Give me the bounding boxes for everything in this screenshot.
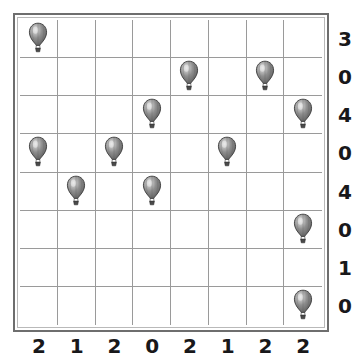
column-clue-1: 2 [20,333,58,359]
grid-cell-r3-c7[interactable] [247,96,285,134]
grid-cell-r2-c1[interactable] [20,58,58,96]
grid-cell-r6-c7[interactable] [247,211,285,249]
grid-cell-r6-c2[interactable] [58,211,96,249]
grid-cell-r3-c3[interactable] [96,96,134,134]
grid-cell-r7-c4[interactable] [133,249,171,287]
grid-cell-r8-c4[interactable] [133,287,171,325]
grid-cell-r6-c6[interactable] [209,211,247,249]
grid-cell-r1-c6[interactable] [209,20,247,58]
puzzle-grid[interactable] [20,20,322,325]
grid-cell-r4-c1[interactable] [20,134,58,172]
grid-cell-r2-c5[interactable] [171,58,209,96]
row-clue-4: 0 [332,134,358,172]
grid-cell-r8-c8[interactable] [284,287,322,325]
grid-cell-r6-c1[interactable] [20,211,58,249]
grid-cell-r2-c8[interactable] [284,58,322,96]
grid-cell-r8-c5[interactable] [171,287,209,325]
grid-cell-r8-c3[interactable] [96,287,134,325]
row-clue-5: 4 [332,173,358,211]
grid-cell-r2-c3[interactable] [96,58,134,96]
hot-air-balloon-icon [142,175,162,207]
row-clue-3: 4 [332,96,358,134]
grid-cell-r3-c4[interactable] [133,96,171,134]
grid-cell-r6-c5[interactable] [171,211,209,249]
grid-cell-r5-c6[interactable] [209,173,247,211]
grid-cell-r8-c2[interactable] [58,287,96,325]
row-clue-2: 0 [332,58,358,96]
column-clue-3: 2 [96,333,134,359]
hot-air-balloon-icon [104,136,124,168]
grid-cell-r8-c7[interactable] [247,287,285,325]
row-clue-1: 3 [332,20,358,58]
hot-air-balloon-icon [28,136,48,168]
grid-cell-r4-c5[interactable] [171,134,209,172]
grid-cell-r3-c1[interactable] [20,96,58,134]
grid-cell-r3-c2[interactable] [58,96,96,134]
grid-cell-r7-c1[interactable] [20,249,58,287]
hot-air-balloon-icon [217,136,237,168]
hot-air-balloon-icon [293,213,313,245]
grid-cell-r5-c4[interactable] [133,173,171,211]
column-clue-2: 1 [58,333,96,359]
column-clue-7: 2 [247,333,285,359]
column-clue-5: 2 [171,333,209,359]
grid-cell-r3-c5[interactable] [171,96,209,134]
column-clue-8: 2 [284,333,322,359]
hot-air-balloon-icon [293,98,313,130]
grid-cell-r1-c3[interactable] [96,20,134,58]
grid-cell-r5-c7[interactable] [247,173,285,211]
grid-cell-r6-c4[interactable] [133,211,171,249]
grid-cell-r6-c8[interactable] [284,211,322,249]
grid-cell-r7-c3[interactable] [96,249,134,287]
row-clue-column: 30404010 [332,20,358,325]
grid-cell-r5-c8[interactable] [284,173,322,211]
column-clue-4: 0 [133,333,171,359]
grid-cell-r2-c6[interactable] [209,58,247,96]
hot-air-balloon-icon [255,60,275,92]
grid-cell-r5-c5[interactable] [171,173,209,211]
hot-air-balloon-icon [142,98,162,130]
grid-cell-r2-c4[interactable] [133,58,171,96]
grid-cell-r4-c8[interactable] [284,134,322,172]
row-clue-6: 0 [332,211,358,249]
hot-air-balloon-icon [293,289,313,321]
grid-cell-r1-c2[interactable] [58,20,96,58]
grid-cell-r3-c6[interactable] [209,96,247,134]
grid-cell-r7-c2[interactable] [58,249,96,287]
grid-cell-r7-c5[interactable] [171,249,209,287]
grid-cell-r3-c8[interactable] [284,96,322,134]
grid-cell-r8-c1[interactable] [20,287,58,325]
hot-air-balloon-icon [179,60,199,92]
grid-cell-r4-c3[interactable] [96,134,134,172]
row-clue-8: 0 [332,287,358,325]
grid-cell-r2-c2[interactable] [58,58,96,96]
grid-cell-r4-c4[interactable] [133,134,171,172]
balloon-puzzle: 30404010 21202122 [0,0,363,364]
column-clue-6: 1 [209,333,247,359]
grid-cell-r5-c2[interactable] [58,173,96,211]
grid-cell-r1-c1[interactable] [20,20,58,58]
hot-air-balloon-icon [66,175,86,207]
grid-cell-r7-c7[interactable] [247,249,285,287]
grid-cell-r8-c6[interactable] [209,287,247,325]
hot-air-balloon-icon [28,22,48,54]
grid-cell-r4-c2[interactable] [58,134,96,172]
grid-cell-r6-c3[interactable] [96,211,134,249]
grid-cell-r1-c5[interactable] [171,20,209,58]
grid-cell-r5-c1[interactable] [20,173,58,211]
grid-cell-r4-c6[interactable] [209,134,247,172]
grid-cell-r4-c7[interactable] [247,134,285,172]
grid-cell-r2-c7[interactable] [247,58,285,96]
grid-cell-r7-c6[interactable] [209,249,247,287]
grid-cell-r1-c7[interactable] [247,20,285,58]
grid-cell-r5-c3[interactable] [96,173,134,211]
grid-cell-r7-c8[interactable] [284,249,322,287]
grid-cell-r1-c8[interactable] [284,20,322,58]
column-clue-row: 21202122 [20,333,322,359]
grid-cell-r1-c4[interactable] [133,20,171,58]
row-clue-7: 1 [332,249,358,287]
